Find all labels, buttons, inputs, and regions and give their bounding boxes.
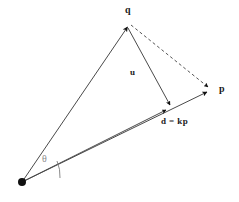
vector-d-line xyxy=(22,110,166,182)
origin-dot xyxy=(18,178,26,186)
label-vector-d: d = kp xyxy=(161,117,188,126)
diagram-canvas xyxy=(0,0,239,202)
dashed-q-to-p-line xyxy=(131,25,208,87)
label-vector-p: p xyxy=(219,84,225,94)
label-vector-q: q xyxy=(125,5,131,15)
label-vector-u: u xyxy=(130,68,135,77)
vector-q-line xyxy=(22,27,128,182)
label-theta-angle: θ xyxy=(42,154,47,164)
vector-projection-diagram: q p u d = kp θ xyxy=(0,0,239,202)
